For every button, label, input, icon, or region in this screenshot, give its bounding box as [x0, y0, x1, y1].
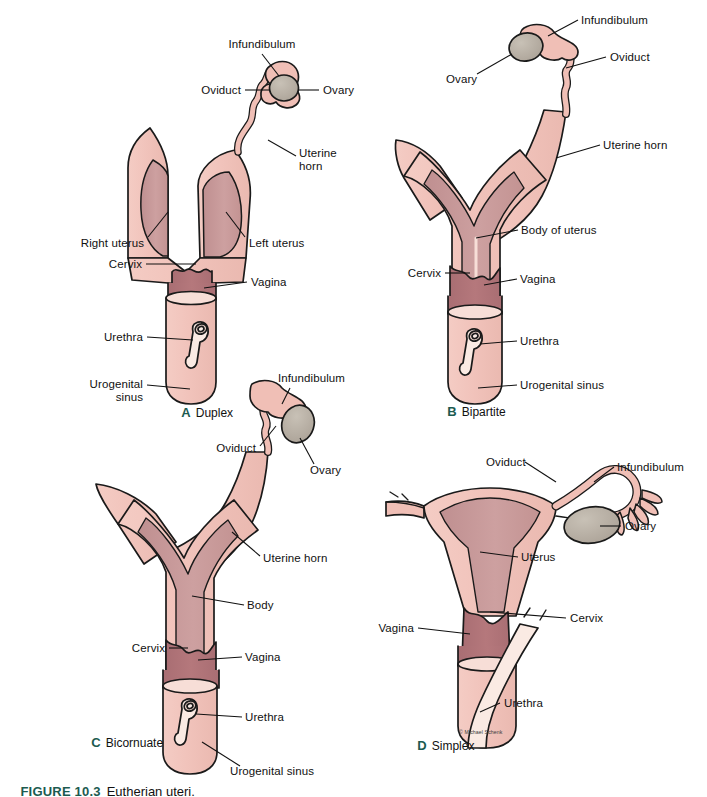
panel-name-b: Bipartite	[462, 405, 506, 419]
label-c-urethra: Urethra	[245, 711, 284, 724]
label-a-uterine-horn: Uterine horn	[299, 147, 337, 173]
label-b-oviduct: Oviduct	[610, 51, 650, 64]
label-a-cervix: Cervix	[109, 258, 142, 271]
panel-caption-c: CBicornuate	[78, 721, 163, 764]
label-c-ovary: Ovary	[310, 464, 341, 477]
label-b-vagina: Vagina	[520, 273, 556, 286]
panel-name-d: Simplex	[432, 739, 475, 753]
figure-caption: FIGURE 10.3Eutherian uteri.	[6, 769, 195, 797]
label-c-body: Body	[247, 599, 274, 612]
label-c-oviduct: Oviduct	[216, 442, 256, 455]
panel-letter-d: D	[417, 738, 426, 753]
label-d-vagina: Vagina	[378, 622, 414, 635]
label-a-urethra: Urethra	[104, 331, 143, 344]
panel-a-artwork	[128, 62, 300, 405]
label-b-infundibulum: Infundibulum	[581, 14, 648, 27]
panel-letter-b: B	[447, 404, 456, 419]
label-d-ovary: Ovary	[625, 520, 656, 533]
panel-c-artwork	[96, 381, 319, 774]
panel-caption-b: BBipartite	[434, 390, 506, 433]
panel-name-c: Bicornuate	[106, 736, 163, 750]
artist-credit: © Michael Schenk	[459, 729, 502, 735]
label-d-oviduct: Oviduct	[486, 456, 526, 469]
label-a-left-uterus: Left uterus	[249, 237, 304, 250]
label-b-body-of-uterus: Body of uterus	[521, 224, 597, 237]
label-b-urogenital-sinus: Urogenital sinus	[520, 379, 604, 392]
label-d-infundibulum: Infundibulum	[617, 461, 684, 474]
label-d-urethra: Urethra	[504, 697, 543, 710]
label-d-cervix: Cervix	[570, 612, 603, 625]
figure-illustration: Infundibulum Oviduct Ovary Uterine horn …	[0, 0, 707, 797]
label-d-uterus: Uterus	[521, 551, 555, 564]
label-c-uterine-horn: Uterine horn	[263, 552, 327, 565]
panel-name-a: Duplex	[196, 406, 233, 420]
label-a-urogenital-sinus: Urogenital sinus	[90, 378, 143, 404]
label-a-oviduct: Oviduct	[201, 84, 241, 97]
label-b-cervix: Cervix	[408, 267, 441, 280]
label-c-cervix: Cervix	[132, 642, 165, 655]
label-c-vagina: Vagina	[245, 651, 281, 664]
label-c-urogenital-sinus: Urogenital sinus	[230, 765, 314, 778]
label-c-infundibulum: Infundibulum	[278, 372, 345, 385]
label-b-uterine-horn: Uterine horn	[603, 139, 667, 152]
label-a-ovary: Ovary	[323, 84, 354, 97]
label-a-vagina: Vagina	[251, 276, 287, 289]
label-b-urethra: Urethra	[520, 335, 559, 348]
label-a-right-uterus: Right uterus	[81, 237, 144, 250]
figure-number: FIGURE 10.3	[20, 784, 100, 797]
label-b-ovary: Ovary	[446, 73, 477, 86]
panel-letter-a: A	[181, 405, 190, 420]
panel-letter-c: C	[91, 735, 100, 750]
panel-caption-a: ADuplex	[168, 391, 233, 434]
label-a-infundibulum: Infundibulum	[228, 38, 295, 51]
figure-caption-text: Eutherian uteri.	[107, 784, 195, 797]
